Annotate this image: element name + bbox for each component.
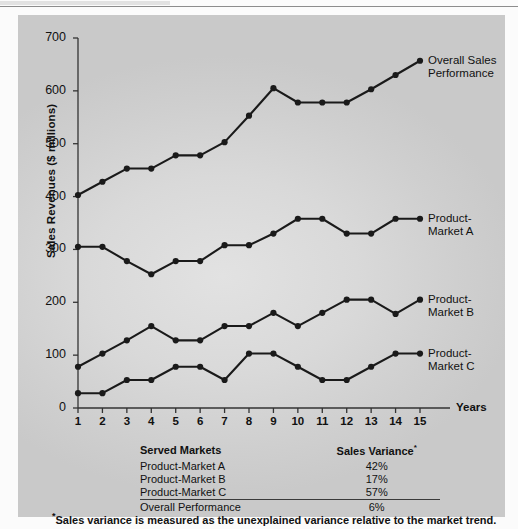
x-tick-6: 6 <box>189 415 211 427</box>
cell-variance: 17% <box>283 473 440 486</box>
series-label-overall-sales-performance: Overall SalesPerformance <box>428 54 496 81</box>
x-tick-4: 4 <box>140 415 162 427</box>
x-tick-12: 12 <box>336 415 358 427</box>
series-label-line: Product- <box>428 293 474 307</box>
sales-variance-table: Served Markets Sales Variance* Product-M… <box>140 443 440 513</box>
y-tick-100: 100 <box>26 347 66 361</box>
page-top-rule <box>0 6 518 7</box>
chart-series <box>75 58 423 397</box>
table-row: Product-Market B17% <box>140 473 440 486</box>
line-chart: Sales Revenues ($ millions) 010020030040… <box>18 15 505 517</box>
x-tick-7: 7 <box>214 415 236 427</box>
x-tick-5: 5 <box>165 415 187 427</box>
y-tick-200: 200 <box>26 294 66 308</box>
cell-market: Product-Market B <box>140 473 283 486</box>
y-tick-700: 700 <box>26 30 66 44</box>
x-tick-3: 3 <box>116 415 138 427</box>
series-label-product-market-b: Product-Market B <box>428 293 474 320</box>
column-header-sales-variance-text: Sales Variance <box>337 445 414 457</box>
footnote-text: Sales variance is measured as the unexpl… <box>56 514 497 526</box>
cell-variance: 57% <box>283 486 440 500</box>
x-tick-9: 9 <box>262 415 284 427</box>
series-label-line: Performance <box>428 67 496 81</box>
column-header-sales-variance: Sales Variance* <box>283 443 440 460</box>
variance-header-superscript: * <box>414 443 417 452</box>
series-label-line: Market A <box>428 225 473 239</box>
series-label-line: Product- <box>428 212 473 226</box>
table-body: Product-Market A42%Product-Market B17%Pr… <box>140 460 440 514</box>
cell-market: Product-Market A <box>140 460 283 473</box>
x-tick-2: 2 <box>91 415 113 427</box>
x-tick-13: 13 <box>360 415 382 427</box>
x-axis-title: Years <box>456 401 487 413</box>
x-tick-1: 1 <box>67 415 89 427</box>
x-tick-8: 8 <box>238 415 260 427</box>
table-row: Product-Market C57% <box>140 486 440 500</box>
cell-market: Product-Market C <box>140 486 283 500</box>
series-label-product-market-c: Product-Market C <box>428 347 475 374</box>
series-label-line: Overall Sales <box>428 54 496 68</box>
chart-axes <box>73 38 450 413</box>
series-label-product-market-a: Product-Market A <box>428 212 473 239</box>
y-tick-0: 0 <box>26 400 66 414</box>
y-tick-300: 300 <box>26 241 66 255</box>
x-tick-14: 14 <box>385 415 407 427</box>
y-tick-400: 400 <box>26 189 66 203</box>
series-label-line: Product- <box>428 347 475 361</box>
x-tick-10: 10 <box>287 415 309 427</box>
y-tick-600: 600 <box>26 83 66 97</box>
series-label-line: Market B <box>428 306 474 320</box>
x-tick-11: 11 <box>311 415 333 427</box>
footnote: *Sales variance is measured as the unexp… <box>52 511 496 526</box>
figure-panel: Sales Revenues ($ millions) 010020030040… <box>18 15 505 517</box>
y-tick-500: 500 <box>26 136 66 150</box>
table-header-row: Served Markets Sales Variance* <box>140 443 440 460</box>
column-header-served-markets: Served Markets <box>140 443 283 460</box>
table-row: Product-Market A42% <box>140 460 440 473</box>
chart-svg <box>18 15 505 517</box>
cell-variance: 42% <box>283 460 440 473</box>
x-tick-15: 15 <box>409 415 431 427</box>
series-label-line: Market C <box>428 360 475 374</box>
